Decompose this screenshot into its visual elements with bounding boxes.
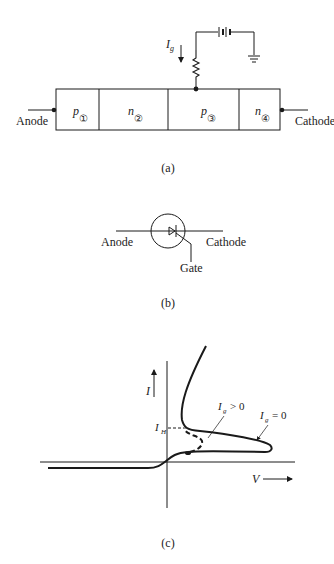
curve-label-ig-positive-relation: > 0 — [230, 400, 245, 412]
figure-a: I g Anode Cathode p ① n ② p ③ — [16, 27, 334, 175]
y-axis-label: I — [145, 384, 151, 398]
figure-c: I V I H I g > 0 I g = 0 (c) — [40, 346, 295, 550]
holding-current-label: I — [154, 421, 160, 433]
region-number: ④ — [261, 113, 270, 124]
curve-label-ig-zero-sub: g — [265, 416, 269, 424]
region-3: p ③ — [200, 104, 216, 124]
figure-b: Anode Cathode Gate (b) — [101, 214, 246, 310]
cathode-label-b: Cathode — [206, 235, 246, 249]
thyristor-symbol-icon — [151, 214, 191, 262]
leader-ig-zero — [257, 425, 268, 440]
region-type: p — [72, 104, 79, 118]
holding-current-sub: H — [160, 428, 167, 436]
leader-ig-positive — [208, 416, 224, 438]
caption-c: (c) — [161, 536, 174, 550]
region-type: p — [200, 104, 207, 118]
caption-b: (b) — [161, 296, 175, 310]
ground-icon — [248, 56, 260, 62]
thyristor-figure: I g Anode Cathode p ① n ② p ③ — [0, 0, 334, 564]
x-axis-label: V — [252, 472, 261, 486]
gate-top-wire — [196, 32, 218, 50]
gate-circuit: I g — [165, 27, 260, 91]
curve-label-ig-zero-relation: = 0 — [272, 409, 287, 421]
branch-dot — [185, 451, 191, 455]
battery-wire — [231, 32, 254, 55]
gate-current-sub: g — [170, 44, 174, 53]
region-number: ① — [79, 113, 88, 124]
gate-label-b: Gate — [180, 261, 203, 275]
resistor-icon — [193, 50, 199, 80]
region-1: p ① — [72, 104, 88, 124]
battery-icon — [219, 27, 230, 37]
region-number: ② — [134, 113, 143, 124]
region-4: n ④ — [255, 104, 270, 124]
region-number: ③ — [207, 113, 216, 124]
curve-label-ig-positive-sub: g — [223, 407, 227, 415]
region-2: n ② — [128, 104, 143, 124]
anode-label: Anode — [16, 114, 48, 128]
cathode-label: Cathode — [295, 114, 334, 128]
caption-a: (a) — [161, 161, 174, 175]
anode-label-b: Anode — [101, 235, 133, 249]
